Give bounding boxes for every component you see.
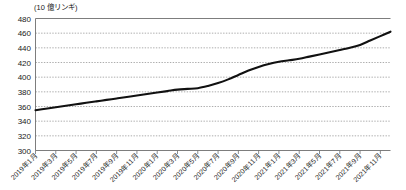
y-axis-tick-label: 420 [18,59,32,68]
y-axis-tick-label: 380 [18,88,32,97]
y-axis-tick-label: 340 [18,117,32,126]
chart-plot-area: 480460440420400380360340320300 2019年1月20… [0,0,406,190]
y-axis-tick-label: 440 [18,44,32,53]
y-axis-tick-labels: 480460440420400380360340320300 [18,15,32,156]
y-axis-tick-label: 400 [18,73,32,82]
data-series-line [36,32,391,110]
y-axis-tick-label: 320 [18,132,32,141]
line-chart: (10 億リンギ) 480460440420400380360340320300… [0,0,406,190]
x-axis-tick-labels: 2019年1月2019年3月2019年5月2019年7月2019年9月2019年… [9,152,384,184]
y-axis-tick-label: 300 [18,147,32,156]
y-axis-tick-label: 480 [18,15,32,24]
x-axis-tickmarks [36,151,381,155]
y-axis-tick-label: 360 [18,103,32,112]
y-axis-tick-label: 460 [18,29,32,38]
